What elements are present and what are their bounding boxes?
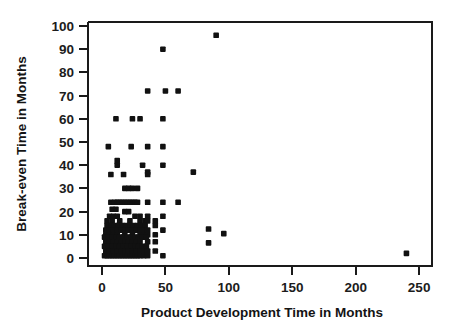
data-point bbox=[113, 206, 119, 212]
data-point bbox=[113, 116, 119, 122]
y-tick-label-90: 90 bbox=[59, 42, 74, 57]
data-point bbox=[160, 213, 166, 219]
data-point bbox=[114, 162, 120, 168]
y-axis-tick-labels: 0102030405060708090100 bbox=[51, 19, 74, 266]
data-point bbox=[152, 239, 158, 245]
x-tick-label-200: 200 bbox=[344, 280, 367, 295]
data-point bbox=[130, 186, 136, 192]
chart-canvas: 0102030405060708090100 050100150200250 P… bbox=[0, 0, 454, 332]
x-axis-ticks bbox=[102, 266, 419, 275]
data-point bbox=[152, 223, 158, 229]
data-point bbox=[145, 88, 151, 94]
data-point bbox=[132, 213, 138, 219]
data-point bbox=[160, 116, 166, 122]
data-point bbox=[404, 251, 410, 257]
x-axis-title: Product Development Time in Months bbox=[141, 305, 383, 320]
data-point bbox=[160, 227, 166, 233]
y-tick-label-60: 60 bbox=[59, 112, 74, 127]
x-axis-tick-labels: 050100150200250 bbox=[98, 280, 430, 295]
data-point bbox=[160, 200, 166, 206]
data-point bbox=[121, 172, 127, 178]
x-tick-label-100: 100 bbox=[218, 280, 241, 295]
y-tick-label-0: 0 bbox=[66, 251, 74, 266]
y-axis-ticks bbox=[79, 26, 88, 258]
y-tick-label-40: 40 bbox=[59, 158, 74, 173]
y-tick-label-50: 50 bbox=[59, 135, 74, 150]
data-point bbox=[175, 200, 181, 206]
data-point bbox=[160, 46, 166, 52]
data-point bbox=[140, 162, 146, 168]
data-point bbox=[126, 209, 132, 215]
data-point bbox=[160, 144, 166, 150]
data-point bbox=[137, 116, 143, 122]
data-point bbox=[145, 200, 151, 206]
data-point bbox=[160, 162, 166, 168]
data-point bbox=[135, 200, 141, 206]
data-point bbox=[221, 231, 227, 237]
data-point bbox=[130, 116, 136, 122]
data-point bbox=[106, 144, 112, 150]
data-point bbox=[175, 88, 181, 94]
y-tick-label-10: 10 bbox=[59, 228, 74, 243]
y-axis-title: Break-even Time in Months bbox=[14, 56, 29, 231]
data-point bbox=[152, 248, 158, 254]
y-tick-label-100: 100 bbox=[51, 19, 74, 34]
x-tick-label-0: 0 bbox=[98, 280, 106, 295]
data-point bbox=[145, 144, 151, 150]
data-point bbox=[152, 232, 158, 238]
data-point bbox=[145, 253, 151, 259]
y-tick-label-30: 30 bbox=[59, 181, 74, 196]
data-point bbox=[128, 144, 134, 150]
data-point bbox=[108, 172, 114, 178]
data-point bbox=[145, 172, 151, 178]
data-point bbox=[163, 88, 169, 94]
y-tick-label-80: 80 bbox=[59, 65, 74, 80]
data-point bbox=[213, 32, 219, 38]
x-tick-label-250: 250 bbox=[408, 280, 431, 295]
x-tick-label-50: 50 bbox=[158, 280, 173, 295]
data-point bbox=[135, 186, 141, 192]
y-tick-label-70: 70 bbox=[59, 89, 74, 104]
data-point-markers bbox=[102, 32, 410, 258]
data-point bbox=[191, 169, 197, 175]
data-point bbox=[206, 226, 212, 232]
y-tick-label-20: 20 bbox=[59, 205, 74, 220]
x-tick-label-150: 150 bbox=[281, 280, 304, 295]
scatter-plot-figure: 0102030405060708090100 050100150200250 P… bbox=[0, 0, 454, 332]
data-point bbox=[160, 253, 166, 259]
data-point bbox=[206, 240, 212, 246]
